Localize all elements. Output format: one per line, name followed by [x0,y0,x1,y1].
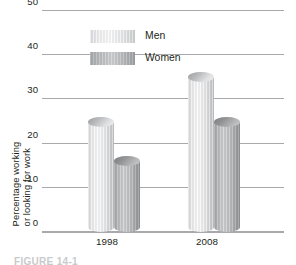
y-axis-tick-label: 10 [12,174,38,184]
figure-caption: FIGURE 14-1 [14,256,78,265]
y-axis-tick-label: 0 [12,218,38,228]
x-axis: 1998 2008 [42,236,284,252]
bar-cap [88,117,114,127]
women-swatch-icon [90,52,135,65]
bar-cap [214,117,240,127]
legend-label-men: Men [145,29,165,43]
y-axis-title-line-1: Percentage working [11,141,20,226]
y-axis-title: Percentage working or looking for work [8,96,38,226]
bar-1998-women [114,161,140,232]
legend-item-women: Women [90,50,210,72]
bar-body [88,122,114,233]
y-axis-tick-label: 50 [12,0,38,7]
y-axis-title-line-2: or looking for work [22,148,31,227]
x-axis-tick-label-1998: 1998 [77,236,137,247]
figure-chart: Percentage working or looking for work 5… [0,0,296,265]
legend-label-women: Women [145,51,181,65]
bar-2008-women [214,122,240,233]
x-axis-tick-label-2008: 2008 [177,236,237,247]
y-axis-tick-label: 40 [12,41,38,51]
y-axis-tick-label: 30 [12,85,38,95]
legend-item-men: Men [90,28,210,50]
bar-body [114,161,140,232]
bar-1998-men [88,122,114,233]
bar-2008-men [188,77,214,232]
men-swatch-icon [90,30,135,43]
x-axis-baseline [42,232,284,233]
bar-body [214,122,240,233]
y-axis-tick-label: 20 [12,130,38,140]
bar-body [188,77,214,232]
legend: Men Women [90,28,210,72]
